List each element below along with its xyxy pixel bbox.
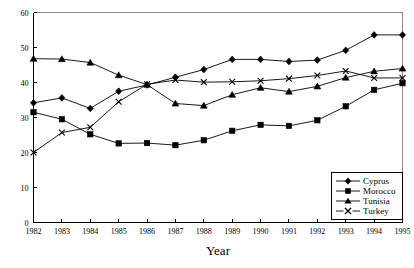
data-point-marker bbox=[399, 65, 406, 71]
legend-item: Cyprus bbox=[335, 176, 397, 186]
legend-marker-square-icon bbox=[335, 186, 361, 196]
chart-canvas: 0102030405060198219831984198519861987198… bbox=[0, 0, 414, 268]
line-chart: 0102030405060198219831984198519861987198… bbox=[0, 0, 414, 268]
legend-marker-x-icon bbox=[335, 206, 361, 216]
x-tick-label: 1986 bbox=[139, 227, 155, 236]
y-tick-label: 20 bbox=[21, 149, 29, 158]
data-point-marker bbox=[314, 57, 320, 64]
x-tick-label: 1983 bbox=[54, 227, 70, 236]
x-tick-label: 1985 bbox=[111, 227, 127, 236]
data-point-marker bbox=[30, 99, 36, 106]
data-point-marker bbox=[286, 123, 291, 128]
y-tick-label: 40 bbox=[21, 79, 29, 88]
data-point-marker bbox=[343, 104, 348, 109]
y-tick-label: 50 bbox=[21, 44, 29, 53]
data-point-marker bbox=[116, 88, 122, 95]
series-turkey bbox=[31, 68, 406, 155]
data-point-marker bbox=[400, 81, 405, 86]
x-tick-label: 1988 bbox=[196, 227, 212, 236]
data-point-marker bbox=[201, 138, 206, 143]
x-tick-label: 1984 bbox=[82, 227, 98, 236]
x-tick-label: 1993 bbox=[338, 227, 354, 236]
data-point-marker bbox=[257, 84, 264, 90]
series-line bbox=[34, 71, 403, 153]
x-tick-label: 1987 bbox=[167, 227, 183, 236]
data-point-marker bbox=[229, 56, 235, 63]
data-point-marker bbox=[59, 117, 64, 122]
data-point-marker bbox=[201, 66, 207, 73]
x-tick-label: 1992 bbox=[309, 227, 325, 236]
legend-label: Cyprus bbox=[361, 176, 389, 186]
y-tick-label: 30 bbox=[21, 114, 29, 123]
data-point-marker bbox=[116, 141, 121, 146]
data-point-marker bbox=[88, 132, 93, 137]
legend-item: Tunisia bbox=[335, 196, 397, 206]
data-point-marker bbox=[115, 72, 122, 78]
x-axis-title: Year bbox=[206, 243, 231, 258]
data-point-marker bbox=[172, 100, 179, 106]
legend-label: Morocco bbox=[361, 186, 396, 196]
data-point-marker bbox=[173, 142, 178, 147]
data-point-marker bbox=[31, 110, 36, 115]
data-point-marker bbox=[371, 87, 376, 92]
legend-marker-diamond-icon bbox=[335, 176, 361, 186]
series-morocco bbox=[31, 81, 405, 148]
x-tick-label: 1990 bbox=[253, 227, 269, 236]
data-point-marker bbox=[87, 105, 93, 112]
x-tick-label: 1991 bbox=[281, 227, 297, 236]
data-point-marker bbox=[286, 58, 292, 65]
data-point-marker bbox=[229, 128, 234, 133]
y-tick-label: 10 bbox=[21, 184, 29, 193]
x-tick-label: 1995 bbox=[395, 227, 411, 236]
chart-legend: Cyprus Morocco Tunisia Turkey bbox=[331, 172, 403, 220]
legend-item: Turkey bbox=[335, 206, 397, 216]
data-point-marker bbox=[343, 47, 349, 54]
x-tick-label: 1989 bbox=[224, 227, 240, 236]
x-tick-label: 1982 bbox=[26, 227, 42, 236]
legend-marker-triangle-icon bbox=[335, 196, 361, 206]
data-point-marker bbox=[315, 118, 320, 123]
data-point-marker bbox=[399, 32, 405, 39]
data-point-marker bbox=[371, 32, 377, 39]
data-point-marker bbox=[258, 122, 263, 127]
legend-item: Morocco bbox=[335, 186, 397, 196]
x-tick-label: 1994 bbox=[366, 227, 382, 236]
data-point-marker bbox=[59, 95, 65, 102]
data-point-marker bbox=[144, 140, 149, 145]
y-tick-label: 60 bbox=[21, 9, 29, 18]
legend-label: Turkey bbox=[361, 206, 389, 216]
data-point-marker bbox=[257, 56, 263, 63]
legend-label: Tunisia bbox=[361, 196, 390, 206]
